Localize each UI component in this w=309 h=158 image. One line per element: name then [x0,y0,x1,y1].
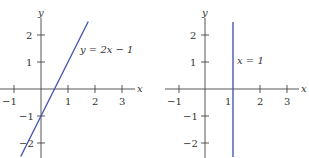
y-tick-label: −2 [183,138,198,149]
x-tick-label: 2 [257,96,263,107]
y-axis-label: y [201,7,208,18]
y-tick-label: 1 [26,57,32,68]
plot-left: y x −1 1 2 3 2 1 −1 −2 y = 2x − 1 [0,7,143,158]
x-tick-label: −1 [167,96,182,107]
x-tick-label: −1 [2,96,17,107]
y-tick-label: 1 [190,57,196,68]
x-tick-label: 2 [92,96,98,107]
y-tick-label: −1 [19,111,34,122]
equation-label: x = 1 [237,55,264,66]
equation-label: y = 2x − 1 [79,44,134,55]
x-tick-label: 1 [65,96,71,107]
y-tick-label: −2 [19,138,34,149]
x-axis-label: x [301,83,307,94]
x-tick-label: 3 [119,96,125,107]
x-tick-label: 3 [284,96,290,107]
y-axis-label: y [37,7,44,18]
y-tick-label: 2 [26,30,32,41]
x-axis-label: x [137,83,143,94]
graphs-figure: y x −1 1 2 3 2 1 −1 −2 y = 2x − 1 y x −1… [0,0,309,158]
y-tick-label: −1 [183,111,198,122]
y-tick-label: 2 [190,30,196,41]
x-tick-label: 1 [225,96,231,107]
plot-right: y x −1 1 2 3 2 1 −1 −2 x = 1 [165,7,307,158]
